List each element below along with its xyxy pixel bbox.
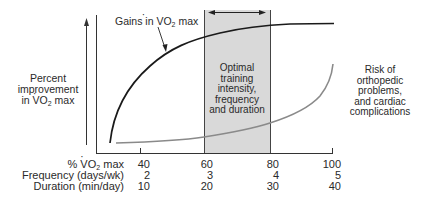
row-label-duration: Duration (min/day)	[10, 180, 124, 192]
gains-text: Gains in VO	[115, 16, 172, 27]
vo-text: in VO	[22, 95, 48, 106]
risk-line-1: Risk of	[344, 65, 416, 76]
optimal-line-1: Optimal	[204, 63, 270, 74]
gains-label: Gains in VO2 max	[115, 16, 198, 27]
max-text: max	[52, 94, 75, 106]
y-axis-label: Percent improvement in VO2 max	[10, 73, 86, 106]
gains-pointer-arrow-icon	[158, 27, 168, 52]
dur-val-30: 30	[255, 180, 279, 192]
risk-line-5: complications	[344, 107, 416, 118]
dur-val-20: 20	[189, 180, 213, 192]
risk-line-3: problems,	[344, 86, 416, 97]
y-label-line-3: in VO2 max	[10, 95, 86, 106]
dur-val-40: 40	[317, 180, 341, 192]
optimal-line-5: and duration	[204, 105, 270, 116]
optimal-label: Optimal training intensity, frequency an…	[204, 63, 270, 116]
dur-val-10: 10	[126, 180, 150, 192]
risk-label: Risk of orthopedic problems, and cardiac…	[344, 65, 416, 118]
optimal-line-3: intensity,	[204, 84, 270, 95]
gains-max-text: max	[176, 15, 199, 27]
